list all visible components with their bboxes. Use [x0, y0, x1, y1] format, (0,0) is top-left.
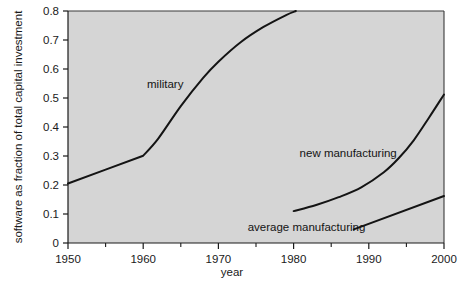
y-tick-label-6: 0.6 [43, 63, 59, 75]
x-tick-label-3: 1980 [281, 253, 307, 265]
x-tick-label-0: 1950 [55, 253, 81, 265]
x-axis-title: year [221, 266, 244, 278]
y-tick-label-8: 0.8 [43, 5, 59, 17]
y-tick-label-4: 0.4 [43, 121, 60, 133]
line-chart: 00.10.20.30.40.50.60.70.8 19501960197019… [0, 0, 467, 287]
y-tick-label-0: 0 [53, 237, 59, 249]
y-axis-tick-labels: 00.10.20.30.40.50.60.70.8 [43, 5, 60, 249]
x-tick-label-2: 1970 [206, 253, 232, 265]
series-label-military: military [147, 78, 184, 90]
y-tick-label-5: 0.5 [43, 92, 59, 104]
y-tick-label-3: 0.3 [43, 150, 59, 162]
x-tick-label-5: 2000 [431, 253, 457, 265]
y-tick-label-7: 0.7 [43, 34, 59, 46]
x-tick-label-1: 1960 [130, 253, 156, 265]
series-label-average-manufacturing: average manufacturing [248, 221, 366, 233]
y-tick-label-2: 0.2 [43, 179, 59, 191]
y-axis-title: software as fraction of total capital in… [12, 10, 24, 243]
plot-area-background [68, 11, 444, 243]
chart-figure: 00.10.20.30.40.50.60.70.8 19501960197019… [0, 0, 467, 287]
x-tick-label-4: 1990 [356, 253, 382, 265]
y-tick-label-1: 0.1 [43, 208, 59, 220]
series-label-new-manufacturing: new manufacturing [300, 147, 397, 159]
